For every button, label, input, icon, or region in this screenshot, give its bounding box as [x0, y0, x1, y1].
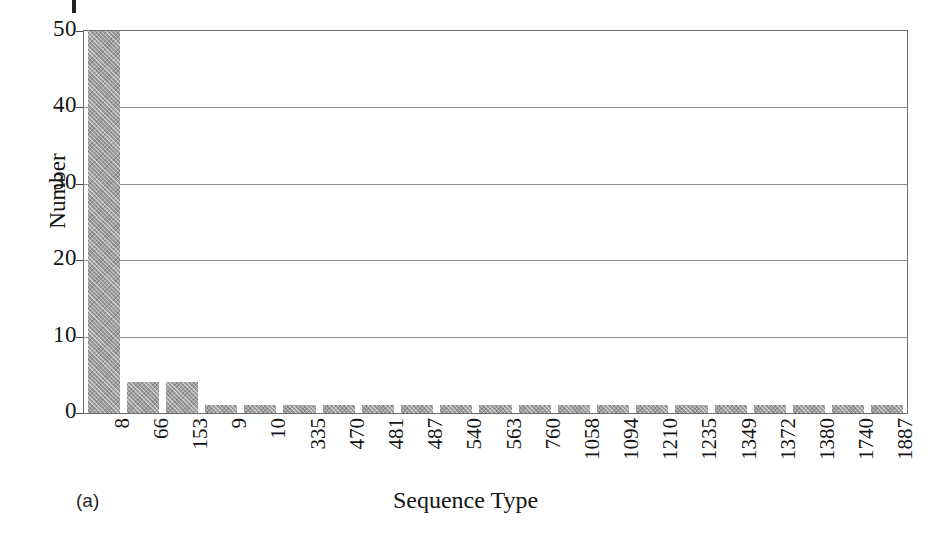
bar: [597, 405, 629, 413]
y-tick-mark: [76, 337, 83, 338]
x-tick-label: 8: [112, 418, 133, 429]
y-tick-label: 10: [53, 322, 77, 348]
bar: [793, 405, 825, 413]
bar: [636, 405, 668, 413]
bar: [205, 405, 237, 413]
x-tick-label: 1740: [856, 418, 877, 460]
x-tick-label: 1380: [817, 418, 838, 460]
bar: [244, 405, 276, 413]
y-tick-mark: [76, 107, 83, 108]
bar: [871, 405, 903, 413]
x-tick-label: 470: [347, 418, 368, 450]
panel-caption: (a): [76, 490, 99, 512]
x-axis: 8661539103354704814875405637601058109412…: [84, 418, 907, 484]
x-tick-label: 1887: [895, 418, 916, 460]
y-tick-label: 50: [53, 16, 77, 42]
bar: [558, 405, 590, 413]
x-tick-label: 481: [386, 418, 407, 450]
figure-panel-a: Number 01020304050 866153910335470481487…: [0, 0, 931, 551]
x-tick-label: 760: [543, 418, 564, 450]
x-tick-label: 540: [464, 418, 485, 450]
x-tick-label: 1210: [660, 418, 681, 460]
x-tick-label: 487: [425, 418, 446, 450]
bar: [715, 405, 747, 413]
bar: [88, 31, 120, 413]
x-tick-label: 335: [308, 418, 329, 450]
y-tick-label: 0: [65, 398, 77, 424]
bar: [832, 405, 864, 413]
x-tick-label: 563: [504, 418, 525, 450]
x-tick-label: 1235: [699, 418, 720, 460]
x-tick-label: 1058: [582, 418, 603, 460]
x-tick-label: 10: [268, 418, 289, 439]
x-tick-label: 1372: [778, 418, 799, 460]
x-tick-label: 66: [151, 418, 172, 439]
bar: [127, 382, 159, 413]
bar: [440, 405, 472, 413]
scan-artifact-mark: [72, 0, 76, 13]
bar: [166, 382, 198, 413]
bar: [401, 405, 433, 413]
x-tick-label: 1349: [739, 418, 760, 460]
y-tick-mark: [76, 413, 83, 414]
bar: [323, 405, 355, 413]
x-axis-title: Sequence Type: [0, 487, 931, 514]
y-tick-label: 40: [53, 92, 77, 118]
bar: [362, 405, 394, 413]
bar: [283, 405, 315, 413]
y-tick-mark: [76, 31, 83, 32]
y-tick-label: 30: [53, 169, 77, 195]
bar: [754, 405, 786, 413]
y-tick-mark: [76, 184, 83, 185]
y-tick-label: 20: [53, 245, 77, 271]
bar: [519, 405, 551, 413]
x-tick-label: 9: [229, 418, 250, 429]
y-tick-mark: [76, 260, 83, 261]
bar: [479, 405, 511, 413]
x-tick-label: 153: [190, 418, 211, 450]
x-tick-label: 1094: [621, 418, 642, 460]
bar: [675, 405, 707, 413]
bar-series: [84, 31, 907, 413]
